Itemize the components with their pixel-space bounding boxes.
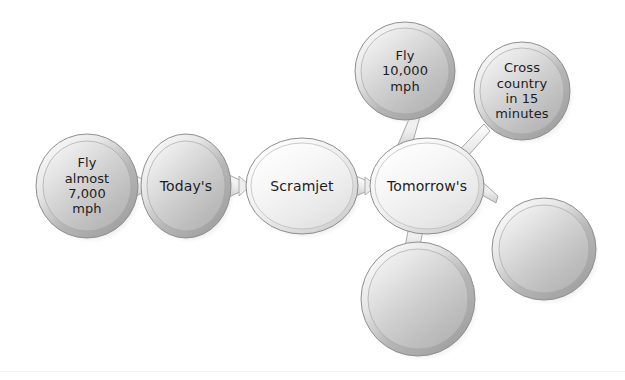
diagram-graphic	[0, 0, 625, 380]
node-blank-bottom[interactable]	[361, 242, 475, 356]
node-tomorrows[interactable]	[370, 138, 484, 234]
node-scramjet[interactable]	[246, 138, 358, 234]
page-bottom-edge	[0, 371, 625, 372]
node-todays[interactable]	[141, 134, 231, 238]
node-blank-right[interactable]	[492, 198, 596, 300]
diagram-canvas: Fly almost 7,000 mph Today's Scramjet To…	[0, 0, 625, 380]
node-fly-almost-7000-mph[interactable]	[36, 134, 138, 238]
node-cross-country-15-minutes[interactable]	[474, 42, 570, 140]
node-fly-10000-mph[interactable]	[355, 22, 455, 120]
